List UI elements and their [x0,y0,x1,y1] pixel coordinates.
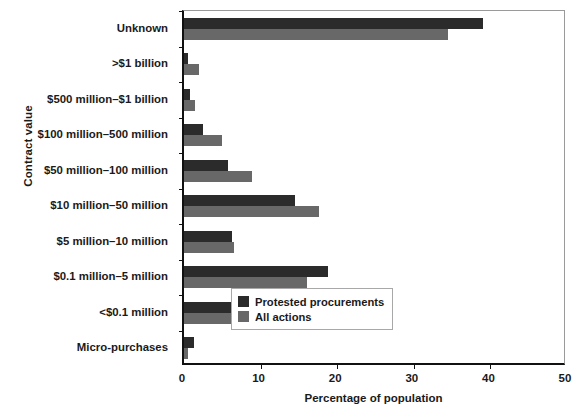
y-axis-tick [179,224,184,225]
bar-all-actions [184,313,238,324]
y-axis-tick [179,11,184,12]
y-axis-tick [179,295,184,296]
legend-item: Protested procurements [238,294,384,309]
bar-chart-figure: Contract value Unknown>$1 billion$500 mi… [0,0,584,415]
bar-protested [184,18,483,29]
bar-all-actions [184,135,222,146]
x-axis-tick-label: 10 [252,372,265,384]
bar-all-actions [184,64,199,75]
x-axis-title: Percentage of population [182,392,565,404]
bar-protested [184,89,190,100]
y-axis-tick [179,82,184,83]
category-axis-labels: Unknown>$1 billion$500 million–$1 billio… [14,10,176,365]
chart-legend: Protested procurementsAll actions [231,288,393,330]
category-label: Unknown [8,22,168,34]
bar-protested [184,266,328,277]
x-axis-tick-label: 20 [329,372,342,384]
category-label: $10 million–50 million [8,199,168,211]
legend-swatch-icon [238,296,249,307]
x-axis-tick [337,363,338,369]
bar-all-actions [184,206,319,217]
x-axis-tick-label: 0 [179,372,185,384]
legend-item: All actions [238,309,384,324]
bar-all-actions [184,242,234,253]
bar-protested [184,337,194,348]
category-label: >$1 billion [8,57,168,69]
bar-all-actions [184,171,252,182]
x-axis-tick-label: 40 [482,372,495,384]
bar-all-actions [184,348,188,359]
bar-protested [184,195,295,206]
category-label: Micro-purchases [8,341,168,353]
x-axis-tick [490,363,491,369]
y-axis-tick [179,118,184,119]
bar-protested [184,231,232,242]
y-axis-tick [179,189,184,190]
bar-all-actions [184,100,195,111]
category-label: $50 million–100 million [8,164,168,176]
y-axis-tick [179,260,184,261]
x-axis-tick [261,363,262,369]
category-label: $5 million–10 million [8,235,168,247]
legend-label: All actions [255,311,312,323]
bar-protested [184,124,203,135]
bar-protested [184,53,188,64]
bar-all-actions [184,29,448,40]
bar-all-actions [184,277,307,288]
category-label: $0.1 million–5 million [8,270,168,282]
y-axis-tick [179,331,184,332]
legend-label: Protested procurements [255,296,384,308]
bar-protested [184,160,228,171]
y-axis-tick [179,47,184,48]
category-label: <$0.1 million [8,306,168,318]
x-axis-tick [414,363,415,369]
legend-swatch-icon [238,311,249,322]
category-label: $100 million–500 million [8,128,168,140]
category-label: $500 million–$1 billion [8,93,168,105]
x-axis-tick-label: 30 [405,372,418,384]
y-axis-tick [179,153,184,154]
x-axis-tick-label: 50 [559,372,572,384]
